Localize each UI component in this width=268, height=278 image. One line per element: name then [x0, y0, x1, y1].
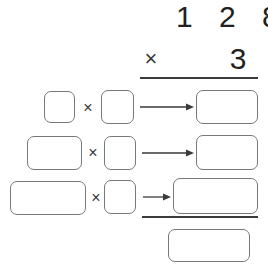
row-1-factor-a-box[interactable]	[44, 91, 75, 123]
row-2-product-box[interactable]	[196, 135, 258, 170]
row-2-times-symbol: ×	[85, 145, 101, 161]
row-1-factor-b-box[interactable]	[101, 90, 134, 124]
multiplier-digit: 3	[218, 44, 258, 74]
row-2-right-arrow-icon	[142, 148, 194, 158]
sum-rule	[142, 216, 258, 218]
row-3-times-symbol: ×	[88, 190, 104, 206]
row-3-product-box[interactable]	[173, 178, 258, 214]
row-1-times-symbol: ×	[80, 100, 96, 116]
total-box[interactable]	[168, 229, 250, 262]
row-3-factor-b-box[interactable]	[104, 180, 136, 214]
row-3-factor-a-box[interactable]	[10, 181, 86, 215]
row-1-product-box[interactable]	[196, 90, 258, 124]
multiplication-worksheet: 1 2 8 × 3 × × ×	[0, 0, 268, 278]
row-3-right-arrow-icon	[143, 192, 171, 202]
row-1-right-arrow-icon	[140, 102, 194, 112]
row-2-factor-b-box[interactable]	[104, 136, 136, 170]
multiplication-operator: ×	[140, 48, 162, 70]
multiplicand-digits: 1 2 8	[176, 2, 258, 32]
problem-rule-top	[140, 77, 258, 79]
row-2-factor-a-box[interactable]	[27, 136, 82, 170]
